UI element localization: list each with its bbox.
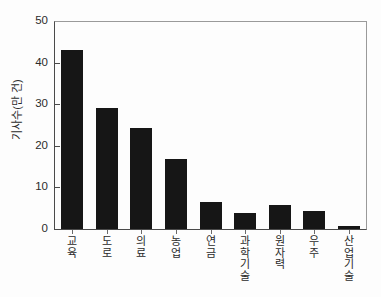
x-category-label-char: 산 — [341, 236, 357, 248]
y-axis-title: 기사수(만 건) — [12, 55, 23, 165]
y-tick-label: 40 — [22, 57, 48, 69]
bar — [96, 108, 118, 229]
x-category-label: 산업기술 — [341, 236, 357, 282]
x-category-label-char: 술 — [237, 271, 253, 283]
x-category-label-char: 육 — [64, 248, 80, 260]
x-tick-mark — [176, 230, 177, 234]
x-category-label-char: 연 — [203, 236, 219, 248]
bar — [234, 213, 256, 229]
y-tick-label: 20 — [22, 140, 48, 152]
x-category-label-char: 우 — [306, 236, 322, 248]
y-axis-tick-labels: 01020304050 — [22, 0, 48, 297]
x-category-label-char: 로 — [99, 248, 115, 260]
x-category-label-char: 의 — [133, 236, 149, 248]
bar — [338, 226, 360, 229]
x-category-label-char: 과 — [237, 236, 253, 248]
bar-chart: 기사수(만 건) 01020304050 교육도로의료농업연금과학기술원자력우주… — [0, 0, 381, 297]
bar — [269, 205, 291, 229]
y-tick-label: 30 — [22, 98, 48, 110]
x-category-label-char: 술 — [341, 271, 357, 283]
x-tick-mark — [211, 230, 212, 234]
x-tick-mark — [280, 230, 281, 234]
x-category-label: 의료 — [133, 236, 149, 259]
x-category-label-char: 원 — [272, 236, 288, 248]
x-tick-mark — [349, 230, 350, 234]
bar — [200, 202, 222, 229]
bar — [165, 159, 187, 229]
x-tick-mark — [72, 230, 73, 234]
x-category-label-char: 기 — [237, 259, 253, 271]
x-tick-mark — [141, 230, 142, 234]
bar — [61, 50, 83, 229]
x-tick-mark — [107, 230, 108, 234]
x-category-label: 우주 — [306, 236, 322, 259]
x-category-label-char: 주 — [306, 248, 322, 260]
x-tick-mark — [245, 230, 246, 234]
x-category-label-char: 력 — [272, 259, 288, 271]
x-category-label-char: 금 — [203, 248, 219, 260]
x-category-label-char: 료 — [133, 248, 149, 260]
x-category-label-char: 교 — [64, 236, 80, 248]
bar — [303, 211, 325, 229]
y-tick-label: 0 — [22, 223, 48, 235]
x-tick-mark — [314, 230, 315, 234]
x-category-label: 원자력 — [272, 236, 288, 271]
x-category-label: 과학기술 — [237, 236, 253, 282]
x-category-label: 농업 — [168, 236, 184, 259]
x-category-label: 연금 — [203, 236, 219, 259]
x-category-label: 교육 — [64, 236, 80, 259]
y-tick-label: 10 — [22, 181, 48, 193]
x-category-label: 도로 — [99, 236, 115, 259]
x-category-label-char: 도 — [99, 236, 115, 248]
x-category-label-char: 농 — [168, 236, 184, 248]
x-category-label-char: 기 — [341, 259, 357, 271]
bar — [130, 128, 152, 230]
x-category-label-char: 업 — [168, 248, 184, 260]
bars-layer — [55, 21, 366, 229]
y-tick-label: 50 — [22, 15, 48, 27]
